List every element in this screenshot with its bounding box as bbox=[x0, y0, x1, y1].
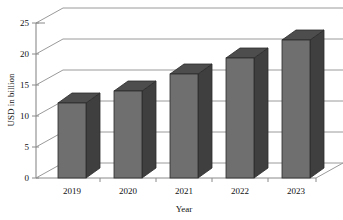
y-tick-label-10: 10 bbox=[20, 111, 30, 121]
bar-2021-side bbox=[198, 64, 212, 178]
bar-2022[interactable] bbox=[226, 48, 268, 178]
chart-canvas: 25 20 15 10 5 0 USD in billion bbox=[0, 0, 343, 220]
bar-2022-front bbox=[226, 58, 254, 178]
bar-2022-side bbox=[254, 48, 268, 178]
y-tick-label-0: 0 bbox=[25, 173, 30, 183]
bar-2021[interactable] bbox=[170, 64, 212, 178]
x-tick-label-2020: 2020 bbox=[119, 186, 138, 196]
x-tick-label-2023: 2023 bbox=[287, 186, 306, 196]
bar-2023[interactable] bbox=[282, 30, 324, 178]
x-tick-label-2019: 2019 bbox=[63, 186, 82, 196]
bar-2020-front bbox=[114, 91, 142, 178]
x-tick-label-2021: 2021 bbox=[175, 186, 193, 196]
bar-2020-side bbox=[142, 81, 156, 178]
x-axis-title: Year bbox=[176, 204, 193, 214]
bar-2019-side bbox=[86, 93, 100, 178]
y-tick-label-25: 25 bbox=[20, 18, 30, 28]
y-axis-title: USD in billion bbox=[6, 73, 16, 127]
bar-2021-front bbox=[170, 74, 198, 178]
bar-2019-front bbox=[58, 103, 86, 178]
bar-2023-front bbox=[282, 40, 310, 178]
y-tick-label-5: 5 bbox=[25, 142, 30, 152]
bar-chart: 25 20 15 10 5 0 USD in billion bbox=[0, 0, 343, 220]
bar-2019[interactable] bbox=[58, 93, 100, 178]
y-tick-label-20: 20 bbox=[20, 49, 30, 59]
bar-2023-side bbox=[310, 30, 324, 178]
bar-2020[interactable] bbox=[114, 81, 156, 178]
x-tick-label-2022: 2022 bbox=[231, 186, 249, 196]
y-tick-label-15: 15 bbox=[20, 80, 30, 90]
